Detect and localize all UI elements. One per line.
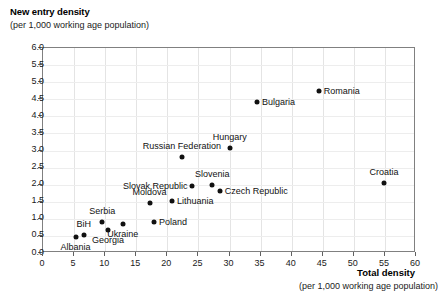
gridline-vertical (136, 48, 137, 251)
gridline-vertical (292, 48, 293, 251)
y-axis-tick-label: 5.0 (31, 77, 44, 86)
x-axis-subtitle: (per 1,000 working age population) (299, 281, 438, 291)
data-point (381, 180, 386, 185)
x-axis-tick-label: 0 (27, 259, 57, 268)
y-axis-tick-label: 2.0 (31, 179, 44, 188)
data-point-label: Russian Federation (143, 142, 221, 151)
x-axis-tick-mark (166, 252, 167, 256)
data-point (105, 228, 110, 233)
x-axis-tick-mark (415, 252, 416, 256)
x-axis-tick-label: 20 (151, 259, 181, 268)
x-axis-tick-label: 40 (276, 259, 306, 268)
gridline-vertical (354, 48, 355, 251)
gridline-horizontal (43, 116, 414, 117)
data-point (151, 219, 156, 224)
data-point-label: Slovenia (195, 170, 230, 179)
data-point-label: BiH (76, 220, 91, 229)
data-point (120, 221, 125, 226)
data-point (316, 89, 321, 94)
data-point (179, 155, 184, 160)
y-axis-subtitle: (per 1,000 working age population) (10, 20, 149, 30)
x-axis-tick-mark (104, 252, 105, 256)
y-axis-title: New entry density (10, 6, 90, 17)
data-point (255, 100, 260, 105)
data-point-label: Albania (61, 243, 91, 252)
x-axis-tick-mark (384, 252, 385, 256)
y-axis-tick-label: 6.0 (31, 43, 44, 52)
gridline-vertical (74, 48, 75, 251)
data-point (227, 145, 232, 150)
data-point (217, 188, 222, 193)
x-axis-tick-mark (322, 252, 323, 256)
x-axis-tick-label: 35 (245, 259, 275, 268)
x-axis-tick-mark (135, 252, 136, 256)
x-axis-tick-mark (229, 252, 230, 256)
gridline-vertical (323, 48, 324, 251)
data-point-label: Moldova (133, 188, 167, 197)
y-axis-tick-label: 4.0 (31, 111, 44, 120)
x-axis-tick-label: 25 (182, 259, 212, 268)
gridline-horizontal (43, 202, 414, 203)
x-axis-tick-mark (73, 252, 74, 256)
gridline-horizontal (43, 65, 414, 66)
data-point-label: Poland (159, 217, 187, 226)
data-point-label: Georgia (92, 236, 124, 245)
x-axis-tick-label: 15 (120, 259, 150, 268)
data-point-label: Lithuania (177, 197, 214, 206)
data-point-label: Romania (324, 87, 360, 96)
x-axis-tick-mark (291, 252, 292, 256)
x-axis-tick-label: 5 (58, 259, 88, 268)
scatter-chart-figure: New entry density (per 1,000 working age… (0, 0, 443, 296)
y-axis-tick-label: 1.0 (31, 213, 44, 222)
data-point-label: Czech Republic (225, 186, 288, 195)
data-point (81, 233, 86, 238)
x-axis-tick-label: 10 (89, 259, 119, 268)
gridline-horizontal (43, 219, 414, 220)
data-point (210, 183, 215, 188)
y-axis-tick-label: 4.5 (31, 94, 44, 103)
x-axis-tick-label: 30 (214, 259, 244, 268)
y-axis-tick-label: 0.5 (31, 230, 44, 239)
gridline-vertical (105, 48, 106, 251)
data-point (147, 200, 152, 205)
gridline-horizontal (43, 99, 414, 100)
data-point (190, 184, 195, 189)
gridline-horizontal (43, 151, 414, 152)
data-point (73, 235, 78, 240)
y-axis-tick-label: 1.5 (31, 196, 44, 205)
data-point (169, 199, 174, 204)
x-axis-tick-mark (353, 252, 354, 256)
y-axis-tick-label: 3.0 (31, 145, 44, 154)
y-axis-tick-label: 2.5 (31, 162, 44, 171)
data-point-label: Croatia (369, 168, 398, 177)
y-axis-tick-label: 3.5 (31, 128, 44, 137)
gridline-vertical (261, 48, 262, 251)
data-point-label: Bulgaria (262, 98, 295, 107)
data-point-label: Serbia (89, 207, 115, 216)
x-axis-tick-mark (42, 252, 43, 256)
gridline-vertical (385, 48, 386, 251)
gridline-horizontal (43, 82, 414, 83)
x-axis-tick-mark (260, 252, 261, 256)
y-axis-tick-label: 5.5 (31, 60, 44, 69)
data-point (100, 219, 105, 224)
x-axis-tick-label: 45 (307, 259, 337, 268)
x-axis-tick-mark (197, 252, 198, 256)
x-axis-title: Total density (357, 267, 415, 278)
